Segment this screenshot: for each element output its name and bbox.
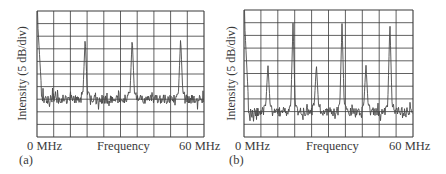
- x-axis-label-b: Frequency: [306, 139, 359, 154]
- y-axis-label-b: Intensity (5 dB/div): [224, 9, 239, 139]
- x-axis-label-a: Frequency: [97, 139, 150, 154]
- x-min-label-a: 0 MHz: [27, 139, 62, 154]
- x-min-label-b: 0 MHz: [235, 139, 270, 154]
- panel-a: Intensity (5 dB/div) 0 MHz Frequency 60 …: [0, 0, 223, 174]
- panel-label-b: (b): [229, 153, 244, 168]
- y-axis-label-a: Intensity (5 dB/div): [15, 9, 30, 139]
- panel-b: Intensity (5 dB/div) 0 MHz Frequency 60 …: [223, 0, 446, 174]
- x-max-label-b: 60 MHz: [389, 139, 430, 154]
- panel-label-a: (a): [19, 153, 33, 168]
- x-max-label-a: 60 MHz: [179, 139, 220, 154]
